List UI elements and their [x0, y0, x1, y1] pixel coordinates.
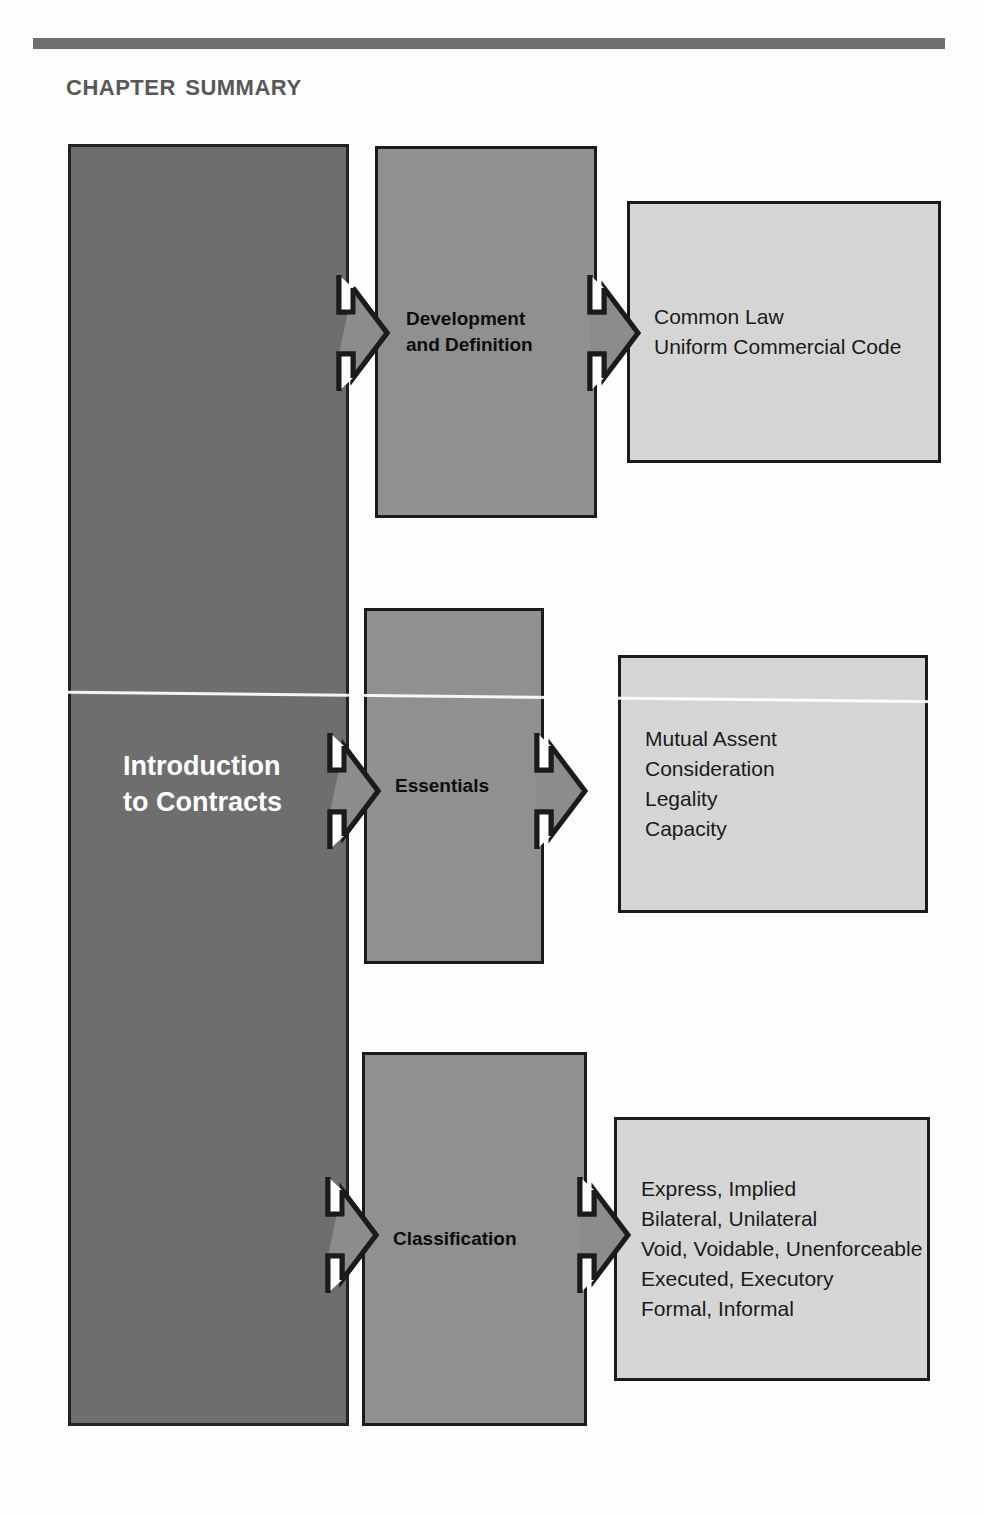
category-label-classification: Classification	[365, 1226, 517, 1252]
category-node-development-and-definition: Development and Definition	[375, 146, 597, 518]
detail-label-classification: Express, Implied Bilateral, Unilateral V…	[617, 1174, 922, 1323]
category-node-classification: Classification	[362, 1052, 587, 1426]
detail-label-essentials: Mutual Assent Consideration Legality Cap…	[621, 724, 777, 843]
detail-node-essentials: Mutual Assent Consideration Legality Cap…	[618, 655, 928, 913]
chapter-summary-page: Chapter Summary Introduction to Contract…	[0, 0, 983, 1514]
category-node-essentials: Essentials	[364, 608, 544, 964]
header-rule-bar	[33, 38, 945, 49]
detail-node-classification: Express, Implied Bilateral, Unilateral V…	[614, 1117, 930, 1381]
category-label-essentials: Essentials	[367, 773, 489, 799]
root-node-label: Introduction to Contracts	[71, 749, 346, 820]
detail-node-development-and-definition: Common Law Uniform Commercial Code	[627, 201, 941, 463]
category-label-development-and-definition: Development and Definition	[378, 306, 533, 358]
detail-label-development-and-definition: Common Law Uniform Commercial Code	[630, 302, 901, 362]
page-title: Chapter Summary	[66, 66, 302, 103]
root-node-introduction-to-contracts: Introduction to Contracts	[68, 144, 349, 1426]
